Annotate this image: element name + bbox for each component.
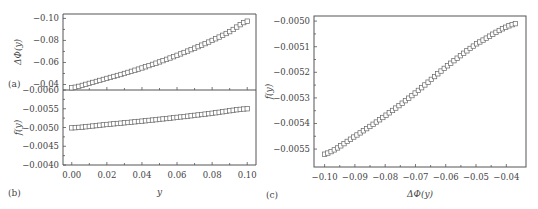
y-axis-label-a: ΔΦ(y)	[13, 39, 23, 66]
y-tick-label-b: −0.0040	[22, 160, 59, 170]
x-tick-label-b: 0.06	[168, 170, 187, 180]
x-tick-label-c: −0.09	[342, 172, 368, 182]
x-tick-label-c: −0.07	[402, 172, 428, 182]
x-tick-label-c: −0.06	[433, 172, 459, 182]
y-tick-label-c: −0.0054	[273, 118, 310, 128]
x-tick-label-c: −0.08	[372, 172, 398, 182]
x-tick-label-b: 0.02	[97, 170, 116, 180]
x-tick-label-b: 0.04	[132, 170, 151, 180]
y-tick-label-c: −0.0055	[273, 144, 310, 154]
y-tick-label-a: −0.06	[33, 57, 59, 67]
y-tick-label-b: −0.0050	[22, 123, 59, 133]
data-point-c	[513, 21, 517, 25]
y-tick-label-c: −0.0052	[273, 67, 310, 77]
y-tick-label-c: −0.0053	[273, 93, 310, 103]
y-tick-label-c: −0.0050	[273, 16, 310, 26]
figure: −0.04−0.06−0.08−0.10ΔΦ(y)(a)−0.0040−0.00…	[0, 0, 538, 209]
x-tick-label-c: −0.10	[312, 172, 338, 182]
y-tick-label-a: −0.10	[33, 13, 59, 23]
x-tick-label-b: 0.08	[203, 170, 222, 180]
x-axis-label-c: ΔΦ(y)	[406, 189, 433, 199]
data-point-b	[245, 107, 249, 111]
y-tick-label-b: −0.0060	[22, 85, 59, 95]
y-tick-label-c: −0.0051	[273, 42, 310, 52]
axis-frame-a	[63, 14, 256, 90]
y-axis-label-b: f(y)	[13, 119, 23, 136]
panel-label-b: (b)	[8, 188, 21, 198]
x-tick-label-c: −0.04	[493, 172, 519, 182]
x-axis-label-b: y	[156, 187, 163, 197]
y-tick-label-b: −0.0055	[22, 104, 59, 114]
data-point-a	[245, 19, 249, 23]
x-tick-label-b: 0.10	[238, 170, 257, 180]
y-tick-label-a: −0.08	[33, 35, 59, 45]
panel-label-a: (a)	[8, 79, 20, 89]
x-tick-label-b: 0.00	[62, 170, 81, 180]
x-tick-label-c: −0.05	[463, 172, 489, 182]
panel-label-c: (c)	[266, 190, 278, 200]
y-axis-label-c: f(y)	[264, 83, 274, 100]
y-tick-label-b: −0.0045	[22, 141, 59, 151]
